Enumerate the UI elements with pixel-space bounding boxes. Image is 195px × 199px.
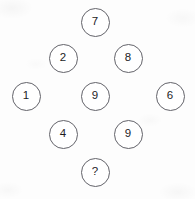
puzzle-number-label: 9	[125, 128, 131, 140]
puzzle-number-label: 7	[92, 16, 98, 28]
puzzle-unknown-label: ?	[92, 166, 98, 178]
number-puzzle-figure: 72819649?	[0, 0, 195, 199]
puzzle-circle-middle-left: 1	[12, 82, 41, 111]
puzzle-circle-lower-left: 4	[49, 120, 78, 149]
puzzle-circle-upper-right: 8	[114, 44, 143, 73]
puzzle-circle-top-apex: 7	[81, 8, 110, 37]
puzzle-circle-bottom-apex: ?	[81, 158, 110, 187]
puzzle-circle-middle-right: 6	[156, 82, 185, 111]
puzzle-number-label: 2	[60, 52, 66, 64]
puzzle-number-label: 8	[125, 52, 131, 64]
puzzle-number-label: 4	[60, 128, 66, 140]
puzzle-circle-middle-center: 9	[81, 82, 110, 111]
puzzle-number-label: 1	[23, 90, 29, 102]
puzzle-number-label: 6	[167, 90, 173, 102]
puzzle-circle-upper-left: 2	[49, 44, 78, 73]
puzzle-number-label: 9	[92, 90, 98, 102]
puzzle-circle-lower-right: 9	[114, 120, 143, 149]
